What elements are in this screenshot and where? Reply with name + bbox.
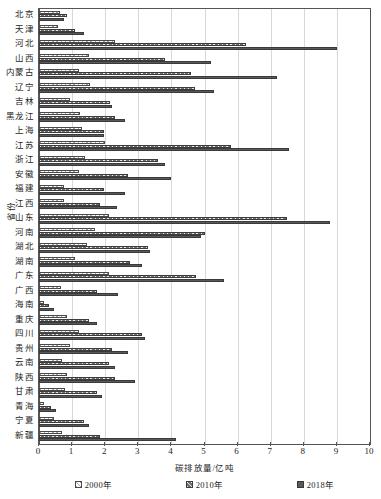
y-tick-青海: 青海 <box>15 402 34 411</box>
y-tick-山西: 山西 <box>15 54 34 63</box>
y-tick-江苏: 江苏 <box>15 141 34 150</box>
y-tick-宁夏: 宁夏 <box>15 416 34 425</box>
x-tick-0: 0 <box>26 446 50 456</box>
bar-2018年 <box>39 264 142 267</box>
bar-2018年 <box>39 76 277 79</box>
bar-group <box>39 286 370 301</box>
bar-group <box>39 127 370 142</box>
bar-rows <box>39 9 370 444</box>
bar-group <box>39 228 370 243</box>
bar-group <box>39 243 370 258</box>
y-tick-辽宁: 辽宁 <box>15 83 34 92</box>
bar-2018年 <box>39 105 112 108</box>
y-tick-河北: 河北 <box>15 39 34 48</box>
bar-group <box>39 83 370 98</box>
bar-2018年 <box>39 148 289 151</box>
y-axis-tick-labels: 北京天津河北山西内蒙古辽宁吉林黑龙江上海江苏浙江安徽福建江西山东河南湖北湖南广东… <box>0 8 36 445</box>
y-tick-广西: 广西 <box>15 286 34 295</box>
legend-label: 2018年 <box>307 478 335 490</box>
bar-group <box>39 344 370 359</box>
y-tick-吉林: 吉林 <box>15 97 34 106</box>
plot-area <box>38 8 371 445</box>
bar-2018年 <box>39 192 125 195</box>
bar-group <box>39 141 370 156</box>
x-tick-6: 6 <box>225 446 249 456</box>
bar-2018年 <box>39 308 54 311</box>
y-tick-天津: 天津 <box>15 25 34 34</box>
bar-2018年 <box>39 47 337 50</box>
y-tick-福建: 福建 <box>15 184 34 193</box>
chart-legend: 2000年2010年2018年 <box>38 478 371 490</box>
legend-item-2018年[interactable]: 2018年 <box>297 478 335 490</box>
bar-2018年 <box>39 221 330 224</box>
bar-2018年 <box>39 322 97 325</box>
bar-group <box>39 69 370 84</box>
bar-2018年 <box>39 366 115 369</box>
bar-group <box>39 170 370 185</box>
bar-group <box>39 373 370 388</box>
bar-group <box>39 11 370 26</box>
bar-group <box>39 54 370 69</box>
bar-2018年 <box>39 279 224 282</box>
y-tick-黑龙江: 黑龙江 <box>6 112 35 121</box>
legend-label: 2000年 <box>85 478 113 490</box>
x-tick-1: 1 <box>59 446 83 456</box>
y-tick-重庆: 重庆 <box>15 315 34 324</box>
y-tick-浙江: 浙江 <box>15 155 34 164</box>
bar-2018年 <box>39 337 145 340</box>
bar-group <box>39 330 370 345</box>
bar-group <box>39 272 370 287</box>
bar-2018年 <box>39 163 165 166</box>
x-tick-10: 10 <box>357 446 381 456</box>
x-tick-2: 2 <box>92 446 116 456</box>
x-axis-tick-labels: 012345678910 <box>38 446 371 460</box>
bar-group <box>39 315 370 330</box>
bar-2018年 <box>39 61 211 64</box>
bar-2018年 <box>39 119 125 122</box>
bar-2018年 <box>39 424 89 427</box>
legend-item-2000年[interactable]: 2000年 <box>75 478 113 490</box>
x-tick-5: 5 <box>192 446 216 456</box>
x-tick-3: 3 <box>125 446 149 456</box>
bar-group <box>39 98 370 113</box>
y-tick-贵州: 贵州 <box>15 344 34 353</box>
bar-group <box>39 431 370 446</box>
bar-2018年 <box>39 409 56 412</box>
open-hatch-swatch <box>75 481 82 488</box>
x-tick-8: 8 <box>291 446 315 456</box>
bar-group <box>39 185 370 200</box>
y-tick-江西: 江西 <box>15 199 34 208</box>
y-tick-四川: 四川 <box>15 329 34 338</box>
dense-hatch-swatch <box>186 481 193 488</box>
y-tick-北京: 北京 <box>15 10 34 19</box>
bar-group <box>39 25 370 40</box>
y-tick-海南: 海南 <box>15 300 34 309</box>
bar-2018年 <box>39 90 214 93</box>
bar-2018年 <box>39 32 84 35</box>
bar-group <box>39 359 370 374</box>
y-tick-云南: 云南 <box>15 358 34 367</box>
bar-group <box>39 214 370 229</box>
bar-group <box>39 40 370 55</box>
y-tick-陕西: 陕西 <box>15 373 34 382</box>
bar-2018年 <box>39 18 64 21</box>
y-tick-广东: 广东 <box>15 271 34 280</box>
legend-item-2010年[interactable]: 2010年 <box>186 478 224 490</box>
x-tick-4: 4 <box>158 446 182 456</box>
y-tick-内蒙古: 内蒙古 <box>6 68 35 77</box>
bar-2018年 <box>39 380 135 383</box>
bar-group <box>39 112 370 127</box>
bar-group <box>39 156 370 171</box>
y-tick-河南: 河南 <box>15 228 34 237</box>
bar-2018年 <box>39 250 150 253</box>
y-tick-甘肃: 甘肃 <box>15 387 34 396</box>
y-tick-新疆: 新疆 <box>15 431 34 440</box>
x-axis-title: 碳排放量/亿吨 <box>38 461 371 473</box>
bar-2018年 <box>39 177 171 180</box>
bar-2018年 <box>39 134 104 137</box>
legend-label: 2010年 <box>196 478 224 490</box>
x-tick-7: 7 <box>258 446 282 456</box>
bar-group <box>39 199 370 214</box>
bar-2018年 <box>39 293 118 296</box>
bar-2018年 <box>39 206 117 209</box>
